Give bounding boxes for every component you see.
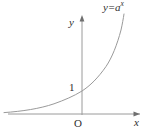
y-axis-label: y bbox=[69, 17, 74, 28]
exponential-function-figure: y x O 1 y=ax bbox=[0, 0, 152, 135]
y-intercept-tick-label: 1 bbox=[69, 82, 75, 93]
equation-exponent: x bbox=[121, 0, 124, 8]
y-axis-arrowhead bbox=[80, 15, 85, 22]
exponential-curve bbox=[4, 14, 124, 113]
x-axis-label: x bbox=[134, 117, 139, 128]
origin-label: O bbox=[74, 118, 82, 129]
equation-equals-sign: = bbox=[108, 1, 114, 13]
plot-canvas bbox=[0, 0, 152, 135]
curve-equation-label: y=ax bbox=[103, 2, 124, 13]
